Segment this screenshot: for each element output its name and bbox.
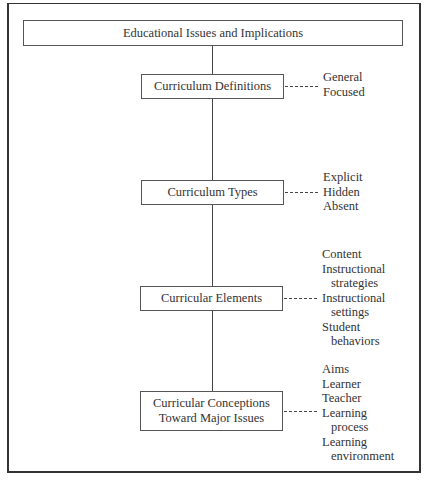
node-label-line1: Curricular Conceptions: [153, 396, 270, 411]
root-node-box: Educational Issues and Implications: [23, 20, 403, 46]
node-label: Curriculum Types: [167, 185, 257, 200]
list-item: Focused: [323, 85, 365, 100]
list-item: Teacher: [322, 391, 394, 406]
list-item: Absent: [323, 199, 363, 214]
dashed-connector: [285, 86, 318, 87]
list-item: Learning: [322, 435, 394, 450]
node-items-list: Content Instructional strategies Instruc…: [322, 247, 385, 349]
node-items-list: Aims Learner Teacher Learning process Le…: [322, 362, 394, 464]
list-item: Aims: [322, 362, 394, 377]
list-item: settings: [322, 305, 385, 320]
list-item: strategies: [322, 276, 385, 291]
dashed-connector: [284, 298, 317, 299]
list-item: Learning: [322, 406, 394, 421]
list-item: behaviors: [322, 334, 385, 349]
list-item: General: [323, 70, 365, 85]
list-item: environment: [322, 449, 394, 464]
list-item: Content: [322, 247, 385, 262]
node-label: Curricular Elements: [161, 291, 262, 306]
node-label: Curriculum Definitions: [154, 79, 271, 94]
list-item: Instructional: [322, 262, 385, 277]
list-item: Student: [322, 320, 385, 335]
root-node-label: Educational Issues and Implications: [123, 26, 303, 41]
node-curriculum-definitions: Curriculum Definitions: [141, 74, 284, 99]
list-item: Instructional: [322, 291, 385, 306]
list-item: Learner: [322, 377, 394, 392]
node-items-list: General Focused: [323, 70, 365, 99]
node-curricular-conceptions: Curricular Conceptions Toward Major Issu…: [140, 391, 283, 431]
list-item: process: [322, 420, 394, 435]
node-label-line2: Toward Major Issues: [159, 411, 264, 426]
node-curriculum-types: Curriculum Types: [141, 180, 284, 205]
dashed-connector: [284, 411, 317, 412]
dashed-connector: [285, 192, 318, 193]
list-item: Explicit: [323, 170, 363, 185]
node-curricular-elements: Curricular Elements: [140, 286, 283, 311]
node-items-list: Explicit Hidden Absent: [323, 170, 363, 214]
list-item: Hidden: [323, 185, 363, 200]
